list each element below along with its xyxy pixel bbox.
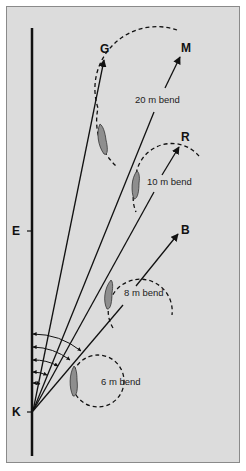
- marker-e-label: E: [12, 225, 20, 237]
- bend-8m-label: 8 m bend: [124, 288, 164, 298]
- marker-g-label: G: [100, 43, 109, 55]
- horse-6m-icon: [70, 366, 77, 396]
- horse-8m-icon: [105, 280, 113, 309]
- horse-10m-icon: [132, 171, 139, 199]
- bend-10m-label: 10 m bend: [147, 177, 192, 187]
- horse-20m-icon: [98, 124, 107, 154]
- line-k-to-m-upper: [165, 57, 180, 88]
- marker-b-label: B: [181, 224, 190, 236]
- bend-20m-label: 20 m bend: [135, 95, 180, 105]
- marker-k-label: K: [12, 406, 21, 418]
- angle-arc-r: [33, 360, 58, 366]
- bend-6m-label: 6 m bend: [101, 377, 141, 387]
- marker-r-label: R: [181, 131, 190, 143]
- line-k-to-b-upper: [136, 234, 178, 286]
- arena-diagram: [0, 0, 246, 471]
- marker-m-label: M: [181, 42, 191, 54]
- line-k-to-r-upper: [162, 147, 179, 175]
- line-k-to-m-lower: [33, 112, 154, 411]
